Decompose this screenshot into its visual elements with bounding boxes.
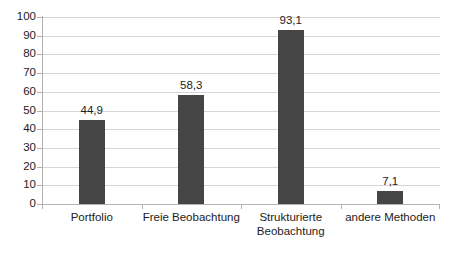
x-axis-category-label: Freie Beobachtung xyxy=(143,210,240,224)
y-axis-tick xyxy=(37,17,42,18)
x-axis-tick xyxy=(142,204,143,209)
y-axis-tick-label: 20 xyxy=(23,161,36,173)
x-axis-category-label-line: Beobachtung xyxy=(257,224,325,238)
bar xyxy=(377,191,403,204)
bar xyxy=(278,30,304,204)
y-axis-tick-label: 50 xyxy=(23,105,36,117)
x-axis-category-label-line: Strukturierte xyxy=(259,211,322,223)
x-axis-category-label: Portfolio xyxy=(71,210,113,224)
x-axis-category-label: StrukturierteBeobachtung xyxy=(257,210,325,238)
y-axis-tick xyxy=(37,111,42,112)
x-axis-tick xyxy=(439,204,440,209)
x-axis-category-label-line: andere Methoden xyxy=(345,211,435,223)
x-axis-tick xyxy=(241,204,242,209)
y-axis-tick xyxy=(37,36,42,37)
bar xyxy=(178,95,204,204)
y-axis-tick-label: 80 xyxy=(23,49,36,61)
bar xyxy=(79,120,105,204)
bar-value-label: 58,3 xyxy=(180,80,202,92)
x-axis-tick xyxy=(341,204,342,209)
y-axis-tick-label: 90 xyxy=(23,30,36,42)
y-axis-tick xyxy=(37,73,42,74)
x-axis-tick xyxy=(42,204,43,209)
y-axis-tick-label: 30 xyxy=(23,142,36,154)
y-axis-tick xyxy=(37,204,42,205)
y-axis-tick-label: 40 xyxy=(23,123,36,135)
bar-value-label: 93,1 xyxy=(280,15,302,27)
y-axis-tick-label: 70 xyxy=(23,67,36,79)
y-axis-tick xyxy=(37,54,42,55)
x-axis-category-label-line: Portfolio xyxy=(71,211,113,223)
bar-value-label: 7,1 xyxy=(382,176,398,188)
y-axis-labels: 1009080706050403020100 xyxy=(0,17,36,204)
y-axis-tick-label: 100 xyxy=(17,11,36,23)
y-axis-tick-label: 0 xyxy=(30,198,36,210)
y-axis-tick-label: 60 xyxy=(23,86,36,98)
y-axis-tick-label: 10 xyxy=(23,180,36,192)
x-axis-labels: PortfolioFreie BeobachtungStrukturierteB… xyxy=(42,210,440,256)
y-axis-tick xyxy=(37,167,42,168)
y-axis-tick xyxy=(37,148,42,149)
x-axis-category-label: andere Methoden xyxy=(345,210,435,224)
bar-chart: 1009080706050403020100 44,958,393,17,1 P… xyxy=(0,0,450,259)
y-axis-tick xyxy=(37,129,42,130)
y-axis-tick xyxy=(37,185,42,186)
bars-layer: 44,958,393,17,1 xyxy=(42,17,440,204)
x-axis-category-label-line: Freie Beobachtung xyxy=(143,211,240,223)
y-axis-tick xyxy=(37,92,42,93)
bar-value-label: 44,9 xyxy=(81,105,103,117)
